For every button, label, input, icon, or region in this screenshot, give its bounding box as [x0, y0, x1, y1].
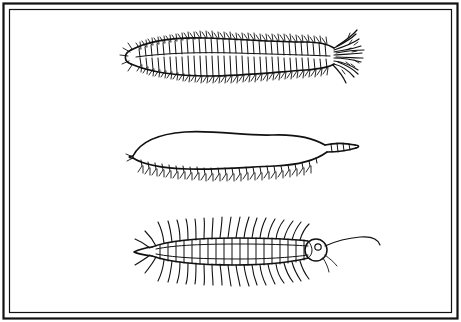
illustration-figure — [0, 0, 461, 322]
line-drawing-canvas — [0, 0, 461, 322]
frame-outer-border — [4, 4, 458, 319]
